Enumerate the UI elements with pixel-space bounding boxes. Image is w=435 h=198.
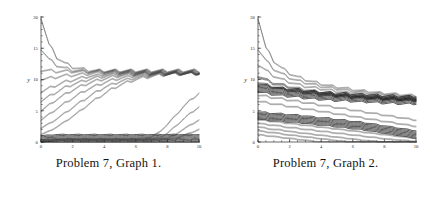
x-tick-label: 4 bbox=[320, 144, 323, 149]
data-curve bbox=[258, 19, 416, 97]
figure-row: 024681005101520ty Problem 7, Graph 1. 02… bbox=[0, 0, 435, 198]
x-axis-label: t bbox=[119, 153, 121, 155]
figure-caption-1: Problem 7, Graph 1. bbox=[56, 156, 162, 171]
y-tick-label: 15 bbox=[33, 46, 38, 51]
y-axis-label: y bbox=[26, 76, 30, 83]
figure-panel-2: 024681005101520ty Problem 7, Graph 2. bbox=[217, 0, 434, 198]
figure-caption-2: Problem 7, Graph 2. bbox=[273, 156, 379, 171]
plot-area-graph-1: 024681005101520ty bbox=[0, 0, 217, 155]
x-tick-label: 0 bbox=[257, 144, 260, 149]
x-tick-label: 10 bbox=[197, 144, 202, 149]
data-curve bbox=[41, 18, 199, 71]
data-curve bbox=[41, 93, 199, 140]
y-tick-label: 20 bbox=[250, 15, 255, 20]
y-tick-label: 15 bbox=[250, 46, 255, 51]
x-tick-label: 0 bbox=[40, 144, 43, 149]
y-tick-label: 5 bbox=[253, 109, 256, 114]
x-tick-label: 4 bbox=[103, 144, 106, 149]
x-axis-label: t bbox=[336, 153, 338, 155]
y-tick-label: 10 bbox=[33, 77, 38, 82]
y-axis-label: y bbox=[243, 76, 247, 83]
x-tick-label: 6 bbox=[135, 144, 138, 149]
y-tick-label: 20 bbox=[33, 15, 38, 20]
data-curve bbox=[41, 50, 199, 73]
data-curve bbox=[41, 71, 199, 110]
x-tick-label: 2 bbox=[71, 144, 74, 149]
x-tick-label: 2 bbox=[288, 144, 291, 149]
data-curve bbox=[41, 72, 199, 111]
x-tick-label: 8 bbox=[166, 144, 169, 149]
data-curve bbox=[41, 19, 199, 72]
data-curve bbox=[41, 71, 199, 120]
y-tick-label: 5 bbox=[36, 109, 39, 114]
x-tick-label: 10 bbox=[414, 144, 419, 149]
y-tick-label: 10 bbox=[250, 77, 255, 82]
chart-graph-1: 024681005101520ty bbox=[0, 0, 217, 155]
y-tick-label: 0 bbox=[36, 140, 39, 145]
x-tick-label: 6 bbox=[352, 144, 355, 149]
y-tick-label: 0 bbox=[253, 140, 256, 145]
plot-area-graph-2: 024681005101520ty bbox=[217, 0, 434, 155]
data-curve bbox=[41, 71, 199, 128]
x-tick-label: 8 bbox=[383, 144, 386, 149]
data-curve bbox=[258, 18, 416, 96]
chart-graph-2: 024681005101520ty bbox=[217, 0, 434, 155]
figure-panel-1: 024681005101520ty Problem 7, Graph 1. bbox=[0, 0, 217, 198]
data-curve bbox=[41, 72, 199, 121]
data-curve bbox=[41, 94, 199, 141]
